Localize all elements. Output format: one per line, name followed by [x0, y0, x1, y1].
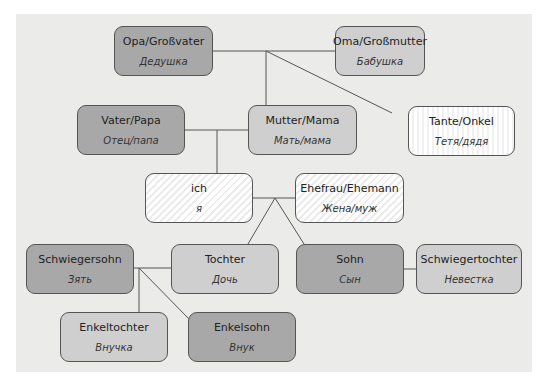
node-label-ru: Невестка — [444, 273, 493, 286]
node-label-de: Ehefrau/Ehemann — [300, 182, 399, 196]
node-enkelsohn: Enkelsohn Внук — [188, 312, 296, 362]
node-enkeltochter: Enkeltochter Внучка — [60, 312, 168, 362]
node-tochter: Tochter Дочь — [171, 244, 279, 294]
node-tante: Tante/Onkel Тетя/дядя — [408, 106, 515, 156]
node-label-de: Tochter — [205, 253, 245, 267]
node-label-ru: Бабушка — [357, 55, 403, 68]
node-label-ru: Жена/муж — [322, 202, 377, 215]
node-label-de: Oma/Großmutter — [333, 35, 427, 49]
node-label-ru: Внучка — [95, 341, 132, 354]
node-label-ru: Зять — [68, 273, 92, 286]
node-opa: Opa/Großvater Дедушка — [114, 26, 213, 76]
node-label-de: Sohn — [336, 253, 364, 267]
node-label-de: Schwiegersohn — [38, 253, 122, 267]
node-label-ru: Тетя/дядя — [435, 135, 488, 148]
node-label-de: Enkelsohn — [214, 321, 270, 335]
node-label-de: Opa/Großvater — [123, 35, 204, 49]
node-label-ru: Дедушка — [139, 55, 187, 68]
node-schwiegersohn: Schwiegersohn Зять — [26, 244, 134, 294]
node-label-ru: Дочь — [212, 273, 238, 286]
node-label-de: Tante/Onkel — [429, 115, 494, 129]
node-label-ru: Отец/папа — [103, 134, 158, 147]
node-label-de: Mutter/Mama — [266, 114, 340, 128]
node-mutter: Mutter/Mama Мать/мама — [248, 105, 357, 155]
node-label-ru: Мать/мама — [274, 134, 331, 147]
node-schwiegertochter: Schwiegertochter Невестка — [416, 244, 522, 294]
node-label-ru: Внук — [229, 341, 254, 354]
node-ehefrau: Ehefrau/Ehemann Жена/муж — [295, 173, 404, 223]
node-ich: ich я — [145, 173, 253, 223]
node-label-ru: я — [196, 202, 202, 215]
node-label-de: Enkeltochter — [79, 321, 148, 335]
node-label-de: ich — [191, 182, 207, 196]
node-oma: Oma/Großmutter Бабушка — [335, 26, 425, 76]
node-label-de: Schwiegertochter — [421, 253, 518, 267]
node-sohn: Sohn Сын — [296, 244, 404, 294]
node-label-de: Vater/Papa — [101, 114, 160, 128]
node-vater: Vater/Papa Отец/папа — [77, 105, 185, 155]
node-label-ru: Сын — [339, 273, 360, 286]
